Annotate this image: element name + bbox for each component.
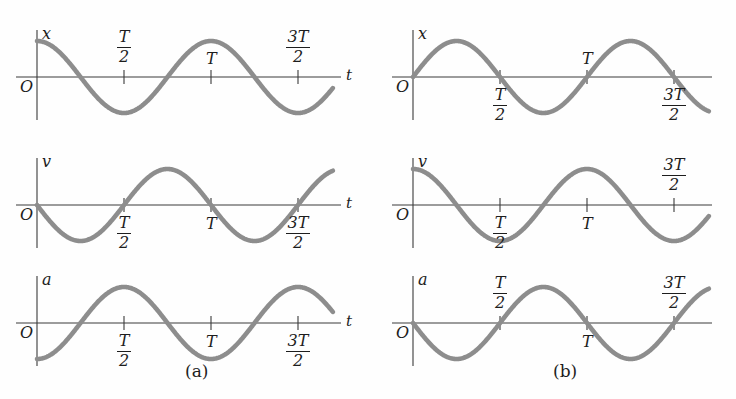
tick-label-fraction: 3T2 (661, 275, 687, 312)
origin-label: O (396, 325, 409, 341)
fraction-denominator: 2 (661, 294, 687, 312)
panel-graphic-b-a (0, 0, 736, 399)
caption-b: (b) (553, 363, 577, 380)
tick-label-fraction: T2 (492, 275, 508, 312)
axis-label-a: a (418, 272, 428, 288)
fraction-denominator: 2 (492, 294, 508, 312)
caption-a: (a) (185, 363, 208, 380)
fraction-numerator: 3T (661, 275, 687, 293)
tick-label: T (582, 334, 593, 350)
fraction-numerator: T (492, 275, 508, 293)
shm-figure: xOtT2T3T2vOtT2T3T2aOtT2T3T2xOT2T3T2vOT2T… (0, 0, 736, 399)
